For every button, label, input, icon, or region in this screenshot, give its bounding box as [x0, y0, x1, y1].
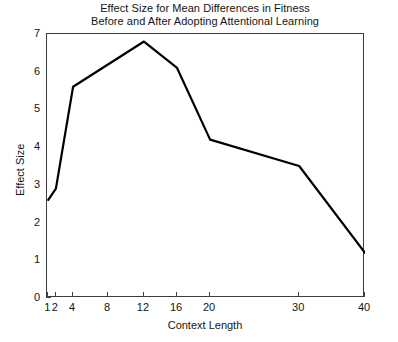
x-tick-mark: [55, 292, 56, 297]
x-tick-mark: [364, 292, 365, 297]
x-tick-label: 4: [57, 301, 87, 313]
y-tick-label: 1: [18, 253, 40, 265]
chart-figure: Effect Size for Mean Differences in Fitn…: [0, 0, 398, 342]
plot-area: [46, 33, 364, 297]
x-tick-mark: [72, 292, 73, 297]
x-tick-label: 40: [349, 301, 379, 313]
chart-title: Effect Size for Mean Differences in Fitn…: [46, 2, 364, 28]
x-tick-mark: [176, 292, 177, 297]
chart-title-line-1: Effect Size for Mean Differences in Fitn…: [46, 2, 364, 15]
data-line-svg: [47, 34, 365, 298]
y-tick-label: 5: [18, 102, 40, 114]
x-tick-label: 30: [283, 301, 313, 313]
y-tick-label: 4: [18, 140, 40, 152]
x-tick-label: 16: [161, 301, 191, 313]
y-tick-label: 6: [18, 65, 40, 77]
x-tick-mark: [143, 292, 144, 297]
y-tick-label: 2: [18, 216, 40, 228]
x-tick-mark: [47, 292, 48, 297]
y-tick-label: 3: [18, 178, 40, 190]
chart-title-line-2: Before and After Adopting Attentional Le…: [46, 15, 364, 28]
effect-size-line: [48, 42, 365, 253]
x-tick-label: 8: [92, 301, 122, 313]
x-axis-label: Context Length: [46, 319, 364, 331]
x-tick-mark: [209, 292, 210, 297]
x-tick-label: 20: [194, 301, 224, 313]
x-tick-mark: [107, 292, 108, 297]
x-tick-label: 12: [128, 301, 158, 313]
x-tick-mark: [298, 292, 299, 297]
y-tick-label: 7: [18, 27, 40, 39]
